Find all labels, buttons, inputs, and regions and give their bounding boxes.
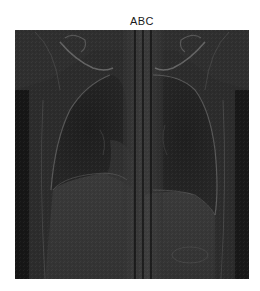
figure-title: ABC [0, 15, 260, 27]
radiograph-rendering [15, 30, 249, 279]
chest-radiograph-image [15, 30, 249, 279]
